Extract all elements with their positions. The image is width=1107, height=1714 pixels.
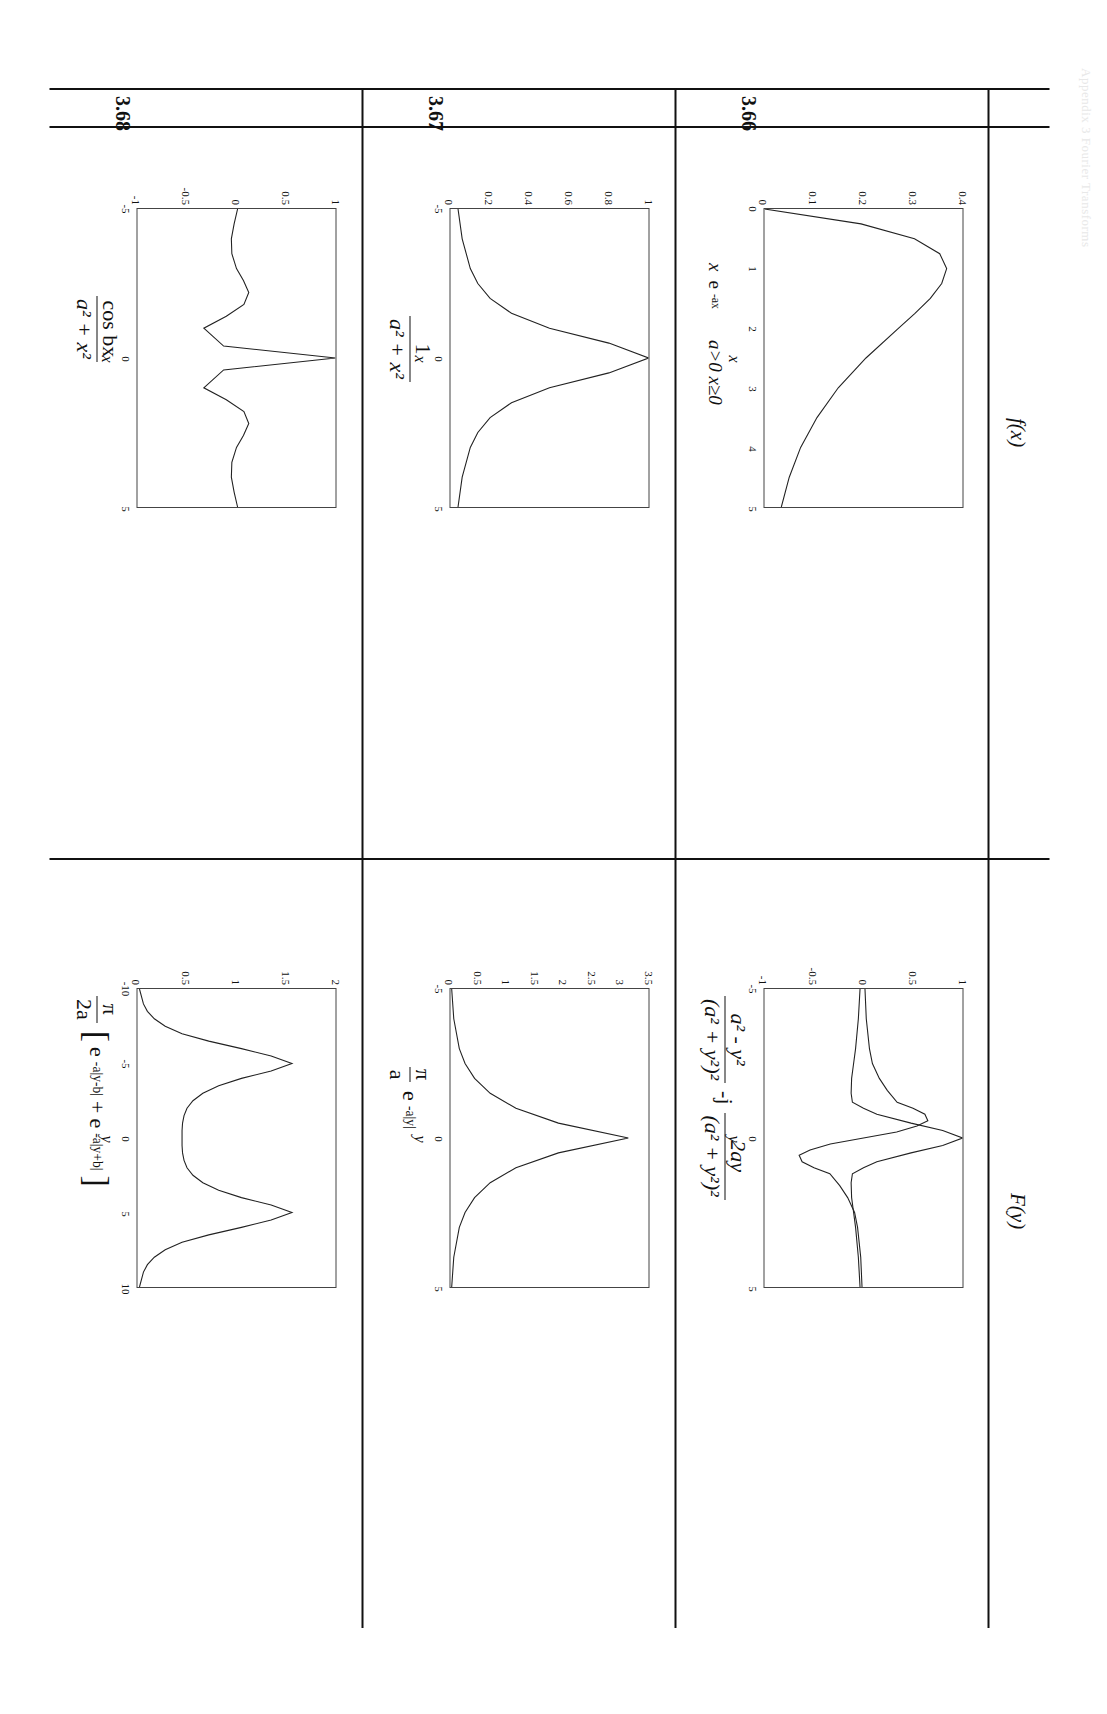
ytick: 0.6 <box>562 175 574 205</box>
fx-den: a² + x² <box>385 316 410 382</box>
fx-den: a² + x² <box>72 296 97 362</box>
row-rule-1 <box>674 88 676 1628</box>
ytick: -1 <box>129 175 141 205</box>
xtick: 3 <box>746 386 758 392</box>
ytick: 1.5 <box>279 955 291 985</box>
ytick: -0.5 <box>806 955 818 985</box>
Fy-plus: + <box>85 1101 108 1113</box>
row-number-3-67: 3.67 <box>423 96 446 131</box>
xtick: 4 <box>746 446 758 452</box>
fx-num: 1 <box>410 340 434 357</box>
chart-3-68-fx-wrap: -1 -0.5 0 0.5 1 -5 0 5 x <box>136 208 336 508</box>
Fy-num: π <box>97 1001 121 1018</box>
Fy-term2-num: 2ay <box>725 1137 749 1175</box>
chart-3-67-Fy-wrap: 0 0.5 1 1.5 2 2.5 3 3.5 -5 0 5 y <box>449 988 649 1288</box>
chart-3-67-fx: 0 0.2 0.4 0.6 0.8 1 -5 0 5 x <box>449 208 649 508</box>
bracket-close: ] <box>83 1176 110 1187</box>
ytick: 0.1 <box>806 179 818 205</box>
Fy-operator: -j <box>713 1091 736 1104</box>
ytick: 0 <box>756 179 768 205</box>
bracket-open: [ <box>83 1031 110 1042</box>
ytick: 1 <box>329 175 341 205</box>
fx-num: cos bx <box>97 297 121 360</box>
chart-3-68-Fy-wrap: 0 0.5 1 1.5 2 -10 -5 0 5 10 y <box>136 988 336 1288</box>
formula-3-68-Fy: π 2a [ e-a|y-b| + e-a|y+b| ] <box>72 993 121 1187</box>
ytick: 0.8 <box>602 175 614 205</box>
Fy-den: 2a <box>72 996 97 1023</box>
ytick: 1 <box>229 955 241 985</box>
ytick: 1 <box>642 175 654 205</box>
chart-3-68-fx: -1 -0.5 0 0.5 1 -5 0 5 x <box>136 208 336 508</box>
chart-3-67-Fy: 0 0.5 1 1.5 2 2.5 3 3.5 -5 0 5 y <box>449 988 649 1288</box>
ytick: 0.2 <box>856 179 868 205</box>
table-left-rule <box>49 88 1049 90</box>
row-number-3-68: 3.68 <box>110 96 133 131</box>
Fy-fraction: π 2a <box>72 996 121 1023</box>
ytick: -0.5 <box>179 175 191 205</box>
page-header-faint: Appendix 3 Fourier Transforms <box>1077 68 1093 248</box>
xtick: 2 <box>746 326 758 332</box>
xaxis-label: x <box>724 355 742 362</box>
table-center-rule <box>49 858 1049 860</box>
formula-3-66-fx: xe-ax a>0 x≥0 <box>704 263 724 405</box>
chart-3-66-fx-wrap: 0 0.1 0.2 0.3 0.4 0 1 2 3 4 5 x <box>763 208 963 508</box>
chart-3-66-fx: 0 0.1 0.2 0.3 0.4 0 1 2 3 4 5 x <box>763 208 963 508</box>
Fy-fraction: π a <box>385 1066 434 1083</box>
yaxis-label: y <box>410 1135 428 1142</box>
formula-3-67-fx: 1 a² + x² <box>385 313 434 385</box>
fx-fraction: cos bx a² + x² <box>72 296 121 362</box>
Fy-den: a <box>385 1067 410 1083</box>
fx-fraction: 1 a² + x² <box>385 316 434 382</box>
ytick: 3.5 <box>642 955 654 985</box>
ytick: 0.3 <box>906 179 918 205</box>
ytick: 0.5 <box>179 955 191 985</box>
ytick: 0.2 <box>482 175 494 205</box>
fx-var: x <box>704 263 724 271</box>
xtick: -5 <box>432 204 444 213</box>
ytick: 1 <box>499 955 511 985</box>
fourier-transform-table: f(x) F(y) 3.66 0 0.1 0.2 0.3 0.4 0 1 2 3… <box>49 88 1049 1628</box>
ytick: 0.4 <box>956 179 968 205</box>
xtick: 0 <box>746 206 758 212</box>
Fy-exp1-base: e <box>85 1047 108 1057</box>
header-rule <box>987 88 989 1628</box>
fx-conditions: a>0 x≥0 <box>704 340 724 405</box>
ytick: 0 <box>129 955 141 985</box>
ytick: 0.4 <box>522 175 534 205</box>
xtick: 5 <box>119 1211 131 1217</box>
chart-3-68-Fy: 0 0.5 1 1.5 2 -10 -5 0 5 10 y <box>136 988 336 1288</box>
xtick: 5 <box>432 506 444 512</box>
chart-3-66-Fy: -1 -0.5 0 0.5 1 -5 0 5 y <box>763 988 963 1288</box>
Fy-term1-den: (a² + y²)² <box>700 996 725 1083</box>
ytick: 2.5 <box>585 955 597 985</box>
ytick: 0.5 <box>279 175 291 205</box>
scanned-page: Appendix 3 Fourier Transforms f(x) F(y) … <box>0 0 1107 1714</box>
row-number-3-66: 3.66 <box>736 96 759 131</box>
row-rule-2 <box>361 88 363 1628</box>
formula-3-66-Fy: a² - y² (a² + y²)² -j 2ay (a² + y²)² <box>700 993 749 1203</box>
table-left-rule-2 <box>49 126 1049 128</box>
ytick: 0 <box>856 955 868 985</box>
ytick: 3 <box>613 955 625 985</box>
Fy-exp2-base: e <box>85 1118 108 1128</box>
Fy-term2-den: (a² + y²)² <box>700 1113 725 1200</box>
xtick: 5 <box>746 506 758 512</box>
chart-3-66-Fy-wrap: -1 -0.5 0 0.5 1 -5 0 5 y <box>763 988 963 1288</box>
xtick: 1 <box>746 266 758 272</box>
ytick: 0 <box>229 175 241 205</box>
ytick: 0 <box>442 955 454 985</box>
ytick: 2 <box>329 955 341 985</box>
formula-3-67-Fy: π a e-a|y| <box>385 1063 434 1129</box>
chart-3-67-fx-wrap: 0 0.2 0.4 0.6 0.8 1 -5 0 5 x <box>449 208 649 508</box>
xtick: 5 <box>432 1286 444 1292</box>
Fy-term1: a² - y² (a² + y²)² <box>700 996 749 1083</box>
xtick: -5 <box>432 984 444 993</box>
ytick: 2 <box>556 955 568 985</box>
Fy-term2: 2ay (a² + y²)² <box>700 1113 749 1200</box>
Fy-num: π <box>410 1066 434 1083</box>
column-header-fx: f(x) <box>1004 418 1029 447</box>
Fy-term1-num: a² - y² <box>725 1010 749 1068</box>
ytick: 0 <box>442 175 454 205</box>
fx-exp-base: e <box>704 280 724 288</box>
column-header-Fy: F(y) <box>1004 1193 1029 1229</box>
